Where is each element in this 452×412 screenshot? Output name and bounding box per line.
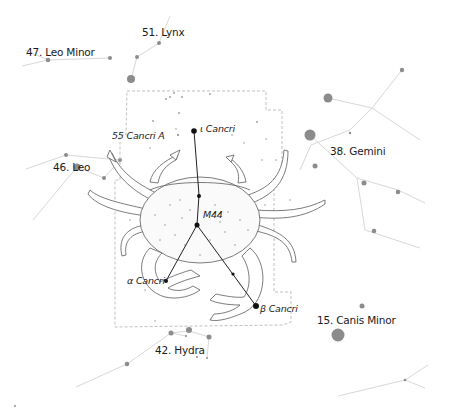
leo-minor-lines bbox=[22, 58, 110, 66]
label-beta-cancri: β Cancri bbox=[260, 304, 298, 314]
star-55-cancri-a[interactable] bbox=[177, 134, 179, 136]
star-gamma-cancri[interactable] bbox=[197, 194, 201, 198]
right-leg-3 bbox=[256, 225, 296, 262]
right-leg-2 bbox=[254, 200, 325, 218]
label-gemini: 38. Gemini bbox=[330, 146, 385, 157]
label-55-cancri-a: 55 Cancri A bbox=[112, 131, 165, 141]
hydra-lines bbox=[76, 331, 209, 387]
crab-illustration bbox=[88, 150, 325, 321]
left-small-claw bbox=[150, 155, 178, 183]
label-canis-minor: 15. Canis Minor bbox=[317, 315, 396, 326]
crab-body bbox=[140, 177, 260, 263]
label-lynx: 51. Lynx bbox=[142, 27, 184, 38]
label-hydra: 42. Hydra bbox=[155, 345, 205, 356]
lower-right-lines bbox=[338, 365, 428, 396]
star-iota-cancri[interactable] bbox=[191, 128, 197, 134]
star-delta-cancri-m44[interactable] bbox=[195, 223, 200, 228]
label-m44: M44 bbox=[203, 210, 223, 220]
star-beta-cancri[interactable] bbox=[253, 303, 259, 309]
star-map bbox=[0, 0, 452, 412]
label-leo-minor: 47. Leo Minor bbox=[26, 47, 95, 58]
label-leo: 46. Leo bbox=[53, 162, 90, 173]
gemini-lines bbox=[328, 98, 420, 140]
label-alpha-cancri: α Cancri bbox=[127, 276, 165, 286]
star-near-beta[interactable] bbox=[231, 272, 234, 275]
label-iota-cancri: ι Cancri bbox=[200, 124, 235, 134]
